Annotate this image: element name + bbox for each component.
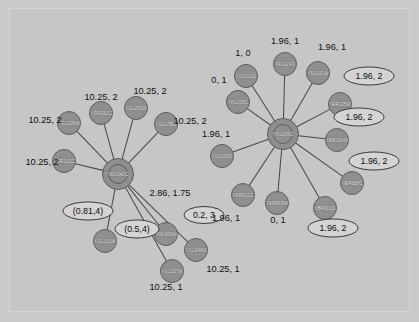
network-graph: YGL206WYGR231CYGL253WYGL178WYGR132CYGL13…: [0, 0, 419, 322]
node-label: YER125W: [329, 102, 352, 107]
stat-label: 1.96, 1: [202, 129, 230, 139]
gene-node[interactable]: YGL035C: [211, 145, 234, 168]
edge: [291, 83, 313, 121]
edge: [233, 139, 269, 152]
gene-node[interactable]: YGR231C: [90, 102, 113, 125]
hub-node[interactable]: YDL042C: [103, 159, 134, 190]
node-label: YFR031C: [233, 193, 254, 198]
ellipse-label-text: 1.96, 2: [346, 112, 373, 122]
node-label: YGL035C: [212, 154, 233, 159]
node-label: YGL244W: [185, 248, 207, 253]
stat-label: 10.25, 2: [28, 115, 61, 125]
edge: [283, 75, 284, 118]
gene-node[interactable]: YFL024C: [274, 53, 297, 76]
node-label: YGL013C: [236, 74, 257, 79]
edge: [297, 109, 330, 126]
node-label: YGL253W: [125, 106, 147, 111]
gene-node[interactable]: YGL207W: [161, 260, 184, 283]
node-label: YGR231C: [90, 111, 112, 116]
node-label: YFL039C: [228, 100, 249, 105]
edge: [104, 124, 114, 159]
ellipse-stat-label: 1.96, 2: [344, 67, 394, 85]
gene-node[interactable]: YBR003C: [314, 197, 337, 220]
node-label: YER164W: [326, 138, 349, 143]
edge: [298, 136, 325, 139]
ellipse-label-text: (0.5,4): [124, 224, 149, 234]
ellipse-stat-label: (0.81,4): [63, 202, 113, 220]
edge: [291, 147, 320, 198]
stat-label: 10.25, 2: [133, 86, 166, 96]
node-label: YER069W: [266, 201, 289, 206]
stat-label: 1.96, 1: [271, 36, 299, 46]
stat-label: 10.25, 2: [173, 116, 206, 126]
gene-node[interactable]: YFL031W: [307, 62, 330, 85]
gene-node[interactable]: YGL133W: [94, 230, 117, 253]
node-label: YGL133W: [94, 239, 116, 244]
edge: [249, 147, 274, 185]
hub-label: YOL006C: [273, 132, 294, 137]
node-label: YFL024C: [275, 62, 296, 67]
edge: [129, 132, 158, 163]
node-label: YML069W: [155, 232, 178, 237]
node-layer: YGL206WYGR231CYGL253WYGL178WYGR132CYGL13…: [53, 53, 364, 283]
stat-label: 1, 0: [235, 48, 250, 58]
ellipse-stat-label: 1.96, 2: [334, 108, 384, 126]
ellipse-label-text: 1.96, 2: [320, 223, 347, 233]
edge: [75, 164, 103, 171]
stat-label: 0, 1: [270, 215, 285, 225]
gene-node[interactable]: YFL039C: [227, 91, 250, 114]
edge: [278, 149, 282, 191]
ellipse-label-text: (0.81,4): [73, 206, 103, 216]
hub-node[interactable]: YOL006C: [268, 119, 299, 150]
ellipse-stat-label: (0.5,4): [115, 220, 159, 238]
stat-label: 10.25, 2: [25, 157, 58, 167]
edge: [77, 131, 107, 163]
gene-node[interactable]: YER088C: [341, 172, 364, 195]
gene-node[interactable]: YER069W: [266, 192, 289, 215]
edge: [122, 119, 133, 159]
gene-node[interactable]: YGL013C: [235, 65, 258, 88]
stat-label: 1.96, 1: [212, 213, 240, 223]
hub-label: YDL042C: [108, 172, 129, 177]
stat-label: 10.25, 1: [206, 264, 239, 274]
stat-label: 10.25, 2: [84, 92, 117, 102]
node-label: YFL031W: [307, 71, 329, 76]
stat-label: 10.25, 1: [149, 282, 182, 292]
node-label: YGL207W: [161, 269, 183, 274]
stat-label: 1.96, 1: [318, 42, 346, 52]
ellipse-label-text: 1.96, 2: [361, 156, 388, 166]
node-label: YER088C: [341, 181, 363, 186]
gene-node[interactable]: YFR031C: [232, 184, 255, 207]
ellipse-label-text: 1.96, 2: [356, 71, 383, 81]
gene-node[interactable]: YGL253W: [125, 97, 148, 120]
stat-label: 2.86, 1.75: [150, 188, 191, 198]
gene-node[interactable]: YER164W: [326, 129, 349, 152]
ellipse-stat-label: 1.96, 2: [308, 219, 358, 237]
ellipse-stat-label: 1.96, 2: [349, 152, 399, 170]
gene-node[interactable]: YGL244W: [185, 239, 208, 262]
stat-label: 0, 1: [211, 75, 226, 85]
figure-canvas: YGL206WYGR231CYGL253WYGL178WYGR132CYGL13…: [0, 0, 419, 322]
edge: [252, 86, 274, 121]
node-label: YBR003C: [314, 206, 336, 211]
edge: [247, 109, 270, 125]
